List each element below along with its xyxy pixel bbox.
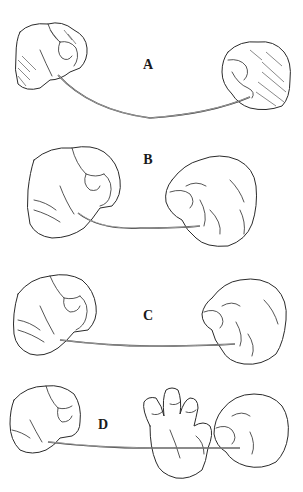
cord-icon bbox=[48, 442, 240, 448]
panel-label-b: B bbox=[143, 152, 152, 168]
right-fist-icon bbox=[222, 42, 290, 110]
panel-label-c: C bbox=[143, 308, 153, 324]
panel-d-drawing bbox=[0, 370, 303, 492]
panel-b-drawing bbox=[0, 130, 303, 250]
open-hand-icon bbox=[144, 388, 212, 478]
right-hand-icon bbox=[214, 394, 288, 467]
panel-label-a: A bbox=[143, 57, 153, 73]
panel-a: A bbox=[0, 0, 303, 130]
left-hand-icon bbox=[10, 386, 80, 453]
panel-label-d: D bbox=[98, 417, 108, 433]
right-hand-icon bbox=[166, 156, 257, 246]
cord-icon bbox=[60, 340, 235, 346]
right-hand-icon bbox=[202, 279, 286, 364]
cord-icon bbox=[58, 75, 250, 118]
panel-d: D bbox=[0, 370, 303, 492]
panel-c: C bbox=[0, 250, 303, 370]
left-fist-icon bbox=[15, 23, 87, 89]
left-hand-icon bbox=[27, 147, 120, 238]
panel-b: B bbox=[0, 130, 303, 250]
